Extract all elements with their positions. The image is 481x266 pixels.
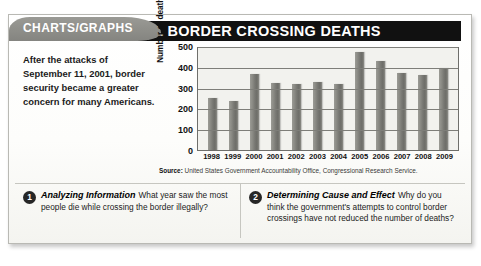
bar-slot	[265, 48, 286, 150]
source-note: Source: United States Government Account…	[159, 167, 463, 174]
y-axis-tick: 100	[178, 125, 193, 135]
source-prefix: Source:	[159, 167, 183, 174]
gridline	[198, 47, 458, 48]
bar-slot	[349, 48, 370, 150]
bar	[208, 98, 217, 150]
card-inner: ILLEGAL BORDER CROSSING DEATHS CHARTS/GR…	[9, 15, 471, 243]
section-tab: CHARTS/GRAPHS	[9, 17, 161, 41]
section-tab-label: CHARTS/GRAPHS	[23, 21, 133, 35]
y-axis-tick: 0	[188, 146, 193, 156]
source-text: United States Government Accountability …	[185, 167, 418, 174]
x-axis-tick: 2004	[328, 152, 349, 161]
bar-slot	[328, 48, 349, 150]
bar	[334, 84, 343, 150]
y-axis-tick: 300	[178, 84, 193, 94]
gridline	[198, 68, 458, 69]
bar-slot	[202, 48, 223, 150]
x-axis-tick: 2000	[243, 152, 264, 161]
bar	[397, 73, 406, 150]
gridline	[198, 109, 458, 110]
x-axis-tick: 2005	[349, 152, 370, 161]
x-axis-tick: 1998	[201, 152, 222, 161]
gridline	[198, 89, 458, 90]
body-area: After the attacks of September 11, 2001,…	[9, 43, 471, 181]
bar-slot	[412, 48, 433, 150]
bar-slot	[223, 48, 244, 150]
x-axis-tick: 2006	[370, 152, 391, 161]
bar-chart: Number of deaths 0100200300400500 199819…	[157, 47, 463, 181]
bar	[292, 84, 301, 150]
bar-slot	[391, 48, 412, 150]
bar-series	[198, 48, 458, 150]
bar	[271, 83, 280, 150]
y-axis-ticks: 0100200300400500	[167, 47, 193, 151]
x-axis-ticks: 1998199920002001200220032004200520062007…	[197, 152, 459, 161]
bar-slot	[244, 48, 265, 150]
x-axis-tick: 2008	[413, 152, 434, 161]
infographic-card: ILLEGAL BORDER CROSSING DEATHS CHARTS/GR…	[8, 14, 472, 244]
plot-area	[197, 47, 459, 151]
gridline	[198, 130, 458, 131]
bar	[418, 75, 427, 150]
x-axis-tick: 1999	[222, 152, 243, 161]
bar-slot	[307, 48, 328, 150]
x-axis-tick: 2001	[265, 152, 286, 161]
y-axis-tick: 400	[178, 63, 193, 73]
screenshot-root: ILLEGAL BORDER CROSSING DEATHS CHARTS/GR…	[0, 0, 481, 266]
question-2-badge: 2	[249, 191, 262, 204]
x-axis-tick: 2007	[392, 152, 413, 161]
y-axis-tick: 500	[178, 42, 193, 52]
y-axis-tick: 200	[178, 104, 193, 114]
question-2-title: Determining Cause and Effect	[267, 190, 395, 200]
bar	[376, 61, 385, 150]
question-2-body: Determining Cause and EffectWhy do you t…	[267, 190, 457, 238]
question-1-badge: 1	[23, 191, 36, 204]
x-axis-tick: 2002	[286, 152, 307, 161]
bar-slot	[286, 48, 307, 150]
question-1-body: Analyzing InformationWhat year saw the m…	[41, 190, 232, 238]
questions-row: 1 Analyzing InformationWhat year saw the…	[15, 183, 465, 238]
bar	[313, 82, 322, 150]
x-axis-tick: 2009	[434, 152, 455, 161]
question-2: 2 Determining Cause and EffectWhy do you…	[240, 184, 465, 238]
bar-slot	[433, 48, 454, 150]
intro-text: After the attacks of September 11, 2001,…	[23, 53, 155, 109]
x-axis-tick: 2003	[307, 152, 328, 161]
y-axis-label: Number of deaths	[156, 0, 165, 65]
bar	[250, 74, 259, 150]
question-1: 1 Analyzing InformationWhat year saw the…	[15, 184, 240, 238]
question-1-title: Analyzing Information	[41, 190, 136, 200]
bar-slot	[370, 48, 391, 150]
